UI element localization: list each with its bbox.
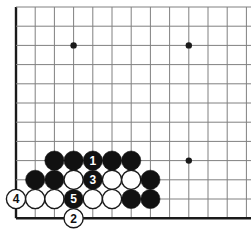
stone-black[interactable] bbox=[45, 151, 64, 170]
stone-black[interactable] bbox=[64, 151, 83, 170]
go-board-diagram: 13452 bbox=[0, 0, 251, 240]
stone-white-move-2[interactable]: 2 bbox=[64, 209, 83, 228]
move-number-label: 5 bbox=[70, 192, 77, 206]
black-stone[interactable] bbox=[141, 170, 160, 189]
white-stone[interactable] bbox=[45, 189, 64, 208]
move-number-label: 2 bbox=[70, 212, 77, 226]
black-stone[interactable] bbox=[122, 189, 141, 208]
stone-white-move-4[interactable]: 4 bbox=[6, 189, 25, 208]
stone-black-move-5[interactable]: 5 bbox=[64, 189, 83, 208]
black-stone[interactable] bbox=[45, 151, 64, 170]
move-number-label: 1 bbox=[89, 154, 96, 168]
star-point-3 bbox=[186, 157, 192, 163]
stone-black[interactable] bbox=[122, 151, 141, 170]
stone-black[interactable] bbox=[122, 189, 141, 208]
white-stone[interactable] bbox=[83, 189, 102, 208]
stone-white[interactable] bbox=[122, 170, 141, 189]
stone-black[interactable] bbox=[141, 189, 160, 208]
black-stone[interactable] bbox=[45, 170, 64, 189]
star-point-2 bbox=[186, 42, 192, 48]
white-stone[interactable] bbox=[26, 189, 45, 208]
stone-black[interactable] bbox=[45, 170, 64, 189]
white-stone[interactable] bbox=[102, 170, 121, 189]
stone-black-move-3[interactable]: 3 bbox=[83, 170, 102, 189]
move-number-label: 4 bbox=[13, 192, 20, 206]
star-point-1 bbox=[70, 42, 76, 48]
black-stone[interactable] bbox=[122, 151, 141, 170]
black-stone[interactable] bbox=[141, 189, 160, 208]
black-stone[interactable] bbox=[102, 151, 121, 170]
stone-black[interactable] bbox=[102, 151, 121, 170]
stone-black[interactable] bbox=[141, 170, 160, 189]
white-stone[interactable] bbox=[122, 170, 141, 189]
stone-white[interactable] bbox=[64, 170, 83, 189]
stone-white[interactable] bbox=[102, 170, 121, 189]
white-stone[interactable] bbox=[102, 189, 121, 208]
stone-white[interactable] bbox=[102, 189, 121, 208]
stone-white[interactable] bbox=[26, 189, 45, 208]
stone-black[interactable] bbox=[26, 170, 45, 189]
black-stone[interactable] bbox=[26, 170, 45, 189]
white-stone[interactable] bbox=[64, 170, 83, 189]
black-stone[interactable] bbox=[64, 151, 83, 170]
stone-black-move-1[interactable]: 1 bbox=[83, 151, 102, 170]
stone-white[interactable] bbox=[83, 189, 102, 208]
move-number-label: 3 bbox=[89, 173, 96, 187]
goban-canvas[interactable]: 13452 bbox=[0, 0, 251, 240]
stone-white[interactable] bbox=[45, 189, 64, 208]
